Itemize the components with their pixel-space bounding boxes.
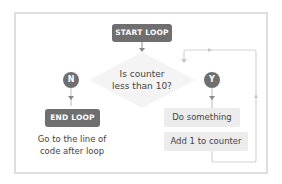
no-marker: N bbox=[63, 72, 79, 88]
yes-marker: Y bbox=[204, 72, 220, 88]
decision-line-2: less than 10? bbox=[102, 80, 182, 92]
decision-line-1: Is counter bbox=[102, 68, 182, 80]
end-loop-label: END LOOP bbox=[50, 113, 95, 122]
caption-line-1: Go to the line of bbox=[22, 133, 122, 145]
step-add-one-to-counter: Add 1 to counter bbox=[164, 132, 248, 151]
start-loop-node: START LOOP bbox=[112, 24, 172, 42]
no-marker-label: N bbox=[68, 75, 75, 84]
end-loop-caption: Go to the line of code after loop bbox=[22, 133, 122, 157]
decision-text: Is counter less than 10? bbox=[102, 68, 182, 92]
caption-line-2: code after loop bbox=[22, 145, 122, 157]
step-do-something: Do something bbox=[164, 108, 240, 127]
start-loop-label: START LOOP bbox=[115, 28, 169, 37]
step-label: Add 1 to counter bbox=[170, 136, 241, 146]
step-label: Do something bbox=[172, 112, 231, 122]
end-loop-node: END LOOP bbox=[45, 109, 100, 127]
yes-marker-label: Y bbox=[209, 75, 215, 84]
